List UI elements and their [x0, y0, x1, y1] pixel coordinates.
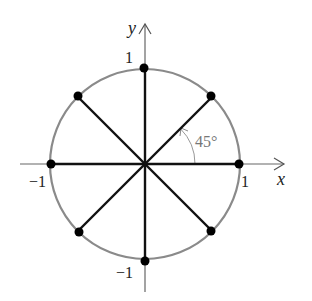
point-45deg	[207, 92, 216, 101]
y-axis-label: y	[126, 18, 136, 38]
tick-label-x-neg: −1	[29, 173, 46, 190]
unit-circle-diagram: y x 1 −1 −1 1 45°	[0, 0, 312, 301]
point-225deg	[75, 228, 84, 237]
tick-label-y-neg: −1	[116, 264, 133, 281]
tick-label-y-pos: 1	[125, 49, 133, 66]
point-180deg	[47, 160, 56, 169]
x-axis-label: x	[276, 169, 285, 189]
point-270deg	[141, 257, 150, 266]
point-90deg	[140, 64, 149, 73]
angle-arc	[180, 129, 195, 164]
angle-label: 45°	[195, 133, 217, 150]
tick-label-x-pos: 1	[241, 173, 249, 190]
point-0deg	[235, 160, 244, 169]
point-135deg	[74, 92, 83, 101]
point-315deg	[207, 227, 216, 236]
